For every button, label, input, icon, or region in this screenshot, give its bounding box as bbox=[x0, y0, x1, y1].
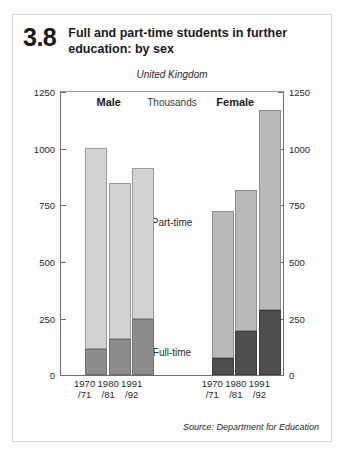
units-label: Thousands bbox=[147, 97, 196, 108]
annotation-part-time: Part-time bbox=[152, 217, 193, 228]
xtick-female-1980-81: 1980 /81 bbox=[225, 379, 246, 401]
page-title: Full and part-time students in further e… bbox=[68, 25, 319, 57]
ytick-right-250: 250 bbox=[289, 313, 305, 324]
ytick-left-750: 750 bbox=[39, 200, 55, 211]
bar-segment-part-time bbox=[212, 211, 234, 358]
bar-segment-full-time bbox=[109, 339, 131, 375]
figure-number: 3.8 bbox=[23, 25, 56, 50]
xtick-line-2: /81 bbox=[225, 390, 246, 401]
bar-male-1991-92 bbox=[132, 168, 154, 375]
xtick-line-2: /71 bbox=[74, 390, 95, 401]
tick-mark-right-1250 bbox=[278, 92, 283, 93]
bar-segment-full-time bbox=[132, 319, 154, 376]
bar-male-1980-81 bbox=[109, 183, 131, 375]
xtick-line-2: /92 bbox=[249, 390, 270, 401]
plot-frame: Male Thousands Female 1250 1250 1000 100… bbox=[60, 91, 284, 376]
plot-area: Male Thousands Female 1250 1250 1000 100… bbox=[13, 85, 331, 397]
xtick-male-1991-92: 1991 /92 bbox=[121, 379, 142, 401]
annotation-full-time: Full-time bbox=[153, 347, 191, 358]
bar-female-1970-71 bbox=[212, 211, 234, 375]
ytick-left-1250: 1250 bbox=[34, 87, 55, 98]
ytick-right-1250: 1250 bbox=[289, 87, 310, 98]
bar-segment-full-time bbox=[259, 310, 281, 376]
source-note: Source: Department for Education bbox=[183, 422, 319, 432]
bar-male-1970-71 bbox=[85, 148, 107, 376]
ytick-left-0: 0 bbox=[50, 370, 55, 381]
bar-segment-full-time bbox=[235, 331, 257, 375]
group-heading-female: Female bbox=[216, 96, 254, 108]
tick-mark-left-500 bbox=[61, 262, 66, 263]
xtick-male-1970-71: 1970 /71 bbox=[74, 379, 95, 401]
tick-mark-left-250 bbox=[61, 319, 66, 320]
bar-segment-part-time bbox=[132, 168, 154, 319]
bar-segment-part-time bbox=[259, 110, 281, 309]
xtick-line-2: /81 bbox=[98, 390, 119, 401]
ytick-left-250: 250 bbox=[39, 313, 55, 324]
bar-segment-part-time bbox=[235, 190, 257, 331]
ytick-right-1000: 1000 bbox=[289, 143, 310, 154]
xtick-line-2: /71 bbox=[202, 390, 223, 401]
bar-segment-part-time bbox=[109, 183, 131, 339]
x-axis-labels: 1970 /71 1980 /81 1991 /92 1970 /71 1980… bbox=[60, 379, 284, 409]
bar-female-1980-81 bbox=[235, 190, 257, 376]
ytick-right-750: 750 bbox=[289, 200, 305, 211]
figure-header: 3.8 Full and part-time students in furth… bbox=[13, 15, 331, 57]
bar-segment-full-time bbox=[85, 349, 107, 375]
xtick-male-1980-81: 1980 /81 bbox=[98, 379, 119, 401]
group-heading-male: Male bbox=[96, 96, 120, 108]
xtick-female-1970-71: 1970 /71 bbox=[202, 379, 223, 401]
ytick-right-500: 500 bbox=[289, 257, 305, 268]
bar-female-1991-92 bbox=[259, 110, 281, 375]
bar-segment-part-time bbox=[85, 148, 107, 350]
xtick-line-2: /92 bbox=[121, 390, 142, 401]
ytick-left-1000: 1000 bbox=[34, 143, 55, 154]
tick-mark-left-750 bbox=[61, 205, 66, 206]
region-label: United Kingdom bbox=[13, 69, 331, 80]
ytick-left-500: 500 bbox=[39, 257, 55, 268]
tick-mark-left-1250 bbox=[61, 92, 66, 93]
xtick-female-1991-92: 1991 /92 bbox=[249, 379, 270, 401]
tick-mark-left-1000 bbox=[61, 149, 66, 150]
bar-segment-full-time bbox=[212, 358, 234, 375]
ytick-right-0: 0 bbox=[289, 370, 294, 381]
figure-panel: 3.8 Full and part-time students in furth… bbox=[12, 14, 332, 442]
